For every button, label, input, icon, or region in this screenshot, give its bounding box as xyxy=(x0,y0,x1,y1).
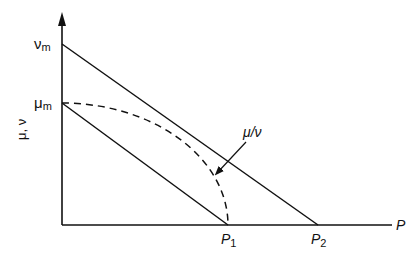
curve-label: μ/ν xyxy=(242,124,262,140)
nu-m-label: νm xyxy=(34,35,51,53)
y-axis-arrow-icon xyxy=(58,12,66,26)
y-axis xyxy=(58,12,66,225)
mu-m-label: μm xyxy=(34,94,52,112)
mu-line xyxy=(62,103,228,225)
y-axis-label: μ, ν xyxy=(14,119,29,140)
p2-label: P2 xyxy=(311,231,326,249)
p1-label: P1 xyxy=(221,231,236,249)
x-axis-label: P xyxy=(396,217,406,233)
diagram-canvas: νm μm μ, ν P1 P2 P μ/ν xyxy=(0,0,418,254)
